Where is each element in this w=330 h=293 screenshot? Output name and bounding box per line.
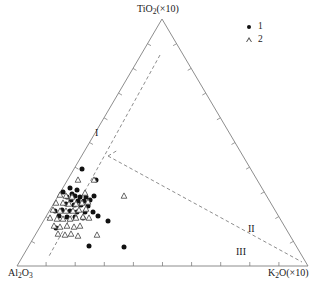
data-point-filled-circle: [92, 194, 97, 199]
axis-label-top: TiO2(×10): [137, 4, 179, 14]
triangle-marker-icon: [243, 37, 255, 42]
data-point-open-triangle: [77, 223, 83, 228]
axis-tick: [148, 44, 151, 46]
region-label-iii: III: [236, 247, 246, 257]
region-dividers: [48, 55, 302, 262]
axis-tick: [173, 44, 176, 46]
axis-tick: [133, 68, 136, 70]
axis-label-left: Al2O3: [8, 268, 33, 278]
axis-tick: [261, 192, 264, 194]
data-point-open-triangle: [94, 232, 100, 237]
axis-tick: [90, 143, 93, 145]
data-point-filled-circle: [122, 245, 127, 250]
data-point-open-triangle: [62, 232, 68, 237]
series-2: [47, 177, 127, 238]
data-point-open-triangle: [75, 177, 81, 182]
data-point-filled-circle: [106, 219, 111, 224]
axis-tick: [32, 241, 35, 243]
data-point-filled-circle: [91, 210, 96, 215]
data-point-open-triangle: [64, 223, 70, 228]
legend-item-1: 1: [243, 20, 303, 33]
axis-label-top-sub: 2: [153, 7, 157, 16]
axis-label-left-sub: 2: [18, 271, 22, 280]
axis-label-top-suffix: (×10): [157, 3, 179, 14]
data-point-filled-circle: [80, 167, 85, 172]
legend-label-1: 1: [258, 22, 263, 32]
divider-junction: [108, 150, 118, 156]
axis-tick: [119, 93, 122, 95]
legend-item-2: 2: [243, 33, 303, 46]
axis-label-left-sub2: 3: [29, 271, 33, 280]
axis-tick: [75, 167, 78, 169]
axis-label-left-mid: O: [22, 267, 29, 278]
legend: 1 2: [243, 20, 303, 46]
axis-label-left-base: Al: [8, 267, 18, 278]
data-point-open-triangle: [82, 190, 88, 195]
data-point-filled-circle: [75, 188, 80, 193]
axis-tick: [217, 118, 220, 120]
data-point-open-triangle: [55, 231, 61, 236]
data-point-filled-circle: [96, 214, 101, 219]
data-point-open-triangle: [86, 215, 92, 220]
ternary-diagram-figure: TiO2(×10) Al2O3 K2O(×10) I II III 1 2: [0, 0, 330, 293]
axis-tick: [232, 143, 235, 145]
region-label-ii: II: [248, 224, 255, 234]
axis-tick: [188, 68, 191, 70]
region-label-i: I: [95, 128, 98, 138]
data-point-open-triangle: [75, 233, 81, 238]
data-point-filled-circle: [68, 186, 73, 191]
divider-II-III: [108, 156, 302, 262]
data-point-open-triangle: [68, 231, 74, 236]
data-point-open-triangle: [121, 193, 127, 198]
axis-tick: [275, 217, 278, 219]
axis-label-top-base: TiO: [137, 3, 153, 14]
circle-marker-icon: [243, 25, 255, 29]
axis-tick: [202, 93, 205, 95]
legend-label-2: 2: [258, 35, 263, 45]
data-point-open-triangle: [71, 224, 77, 229]
axis-tick: [246, 167, 249, 169]
axis-tick: [104, 118, 107, 120]
axis-label-right-sub: 2: [275, 271, 279, 280]
data-point-filled-circle: [87, 244, 92, 249]
axis-label-right-suffix: O(×10): [279, 267, 309, 278]
axis-tick: [290, 241, 293, 243]
axis-label-right: K2O(×10): [268, 268, 309, 278]
